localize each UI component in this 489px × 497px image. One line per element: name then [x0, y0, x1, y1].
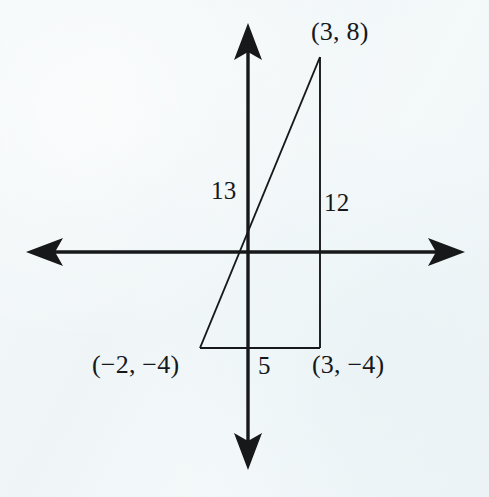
y-axis: [234, 23, 262, 470]
vertex-label-3-neg4: (3, −4): [312, 352, 384, 378]
vertex-label-3-8: (3, 8): [311, 19, 369, 45]
side-length-label-hypotenuse: 13: [211, 178, 236, 203]
x-axis: [26, 238, 465, 266]
vertex-label-neg2-neg4: (−2, −4): [92, 352, 179, 378]
side-length-label-base-leg: 5: [258, 353, 271, 378]
side-length-label-vertical-leg: 12: [324, 190, 349, 215]
figure-canvas: (3, 8) 13 12 (−2, −4) 5 (3, −4): [0, 0, 489, 497]
coordinate-plane-diagram: [0, 0, 489, 497]
